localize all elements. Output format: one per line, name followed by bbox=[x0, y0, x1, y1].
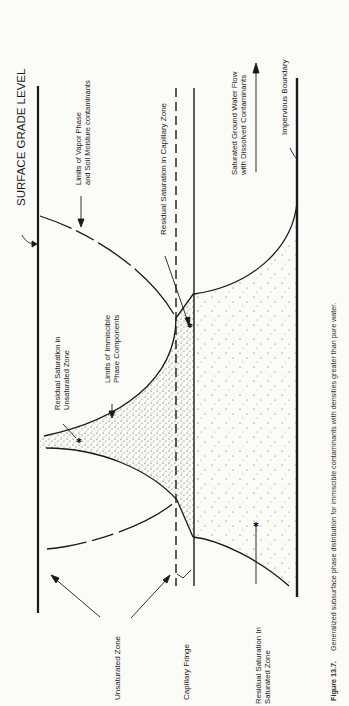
impervious-label: Impervious Boundary bbox=[280, 59, 289, 135]
capillary-fringe-label: Capillary Fringe bbox=[182, 643, 191, 700]
surface-grade-title: SURFACE GRADE LEVEL bbox=[15, 68, 27, 206]
residual-saturated-label-1: Residual Saturation In bbox=[254, 627, 263, 704]
residual-saturated-label-2: Saturated Zone bbox=[263, 650, 272, 704]
svg-text:✱: ✱ bbox=[253, 521, 259, 529]
svg-text:✱: ✱ bbox=[187, 322, 193, 330]
figure-caption: Figure 13.7. Generalized subsurface phas… bbox=[329, 303, 338, 701]
vapor-limit-label-1: Limits of Vapor Phase bbox=[74, 112, 83, 185]
immiscible-label-2: Phase Components bbox=[112, 314, 121, 383]
vapor-limit-label-2: and Soil Moisture contaminants bbox=[83, 80, 92, 185]
immiscible-label-1: Limits of Immiscible bbox=[103, 315, 112, 383]
gw-flow-label-2: with Dissolved Contaminants bbox=[239, 75, 248, 176]
residual-capillary-label: Residual Saturation in Capillary Zone bbox=[159, 102, 168, 235]
gw-flow-label-1: Saturated Ground Water Flow bbox=[230, 71, 239, 175]
svg-text:✱: ✱ bbox=[76, 437, 82, 445]
residual-unsaturated-label-2: Unsaturated Zone bbox=[62, 350, 71, 410]
vapor-limit-lower-curve bbox=[47, 500, 177, 549]
figure-caption-text: Generalized subsurface phase distributio… bbox=[329, 303, 338, 651]
saturated-zone-plume bbox=[193, 203, 297, 590]
unsaturated-zone-label: Unsaturated Zone bbox=[113, 635, 122, 700]
subsurface-phase-diagram: ✱ ✱ ✱ SURFACE GRADE LEVEL Limits of Vapo… bbox=[0, 0, 349, 706]
vapor-limit-upper-curve bbox=[40, 216, 176, 318]
residual-unsaturated-label-1: Residual Saturation in bbox=[53, 337, 62, 410]
figure-caption-label: Figure 13.7. bbox=[329, 661, 338, 701]
